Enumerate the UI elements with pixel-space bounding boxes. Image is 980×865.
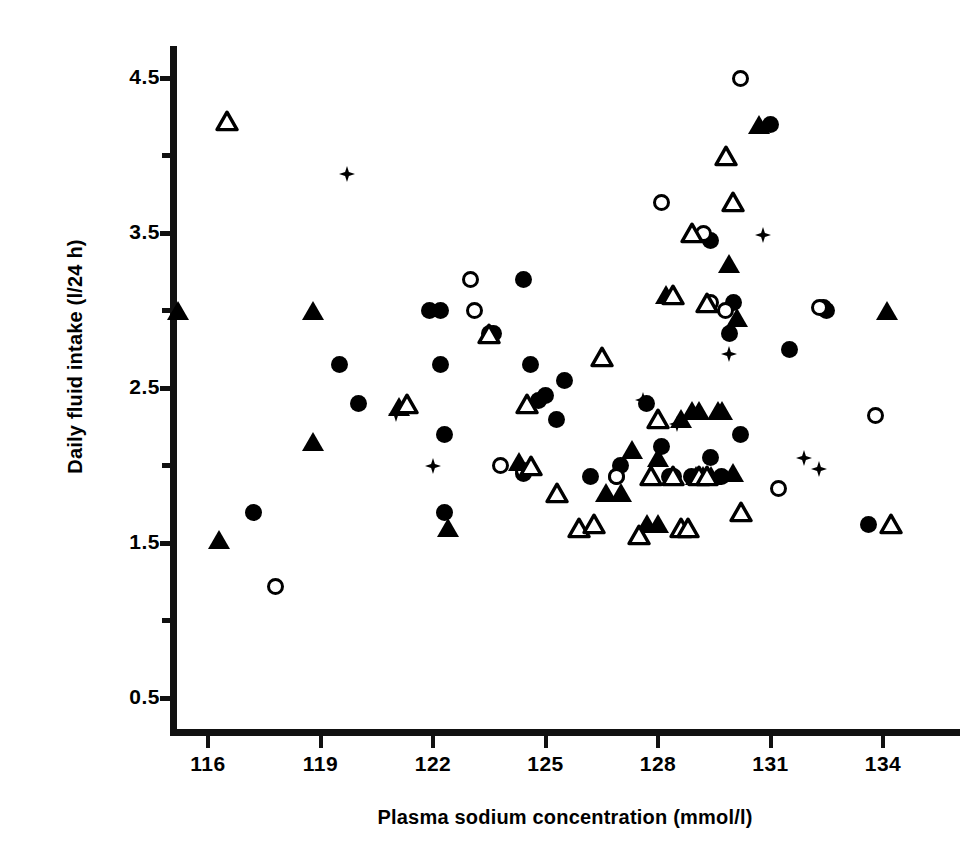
scatter-plot-figure: 4.53.52.51.50.5 116119122125128131134 Pl… <box>0 0 980 865</box>
data-point-filled-circle <box>556 372 573 389</box>
data-point-open-triangle <box>669 517 693 539</box>
data-point-filled-triangle <box>610 483 632 502</box>
data-point-filled-circle <box>436 426 453 443</box>
data-point-filled-circle <box>350 395 367 412</box>
data-point-open-triangle <box>695 465 719 487</box>
data-point-filled-triangle <box>670 409 692 428</box>
data-point-open-triangle <box>721 191 745 213</box>
data-point-filled-circle <box>815 299 832 316</box>
data-point-filled-triangle <box>167 301 189 320</box>
data-point-open-circle <box>867 407 884 424</box>
data-point-open-circle <box>608 468 625 485</box>
data-point-filled-circle <box>661 468 678 485</box>
data-point-filled-circle <box>702 232 719 249</box>
data-point-filled-circle <box>721 325 738 342</box>
data-point-filled-triangle <box>688 401 710 420</box>
data-point-open-triangle <box>879 513 903 535</box>
data-point-filled-triangle <box>636 514 658 533</box>
data-point-filled-circle <box>548 411 565 428</box>
data-point-plus-star <box>388 406 404 422</box>
data-point-filled-circle <box>725 294 742 311</box>
data-point-filled-triangle <box>508 452 530 471</box>
data-point-filled-circle <box>331 356 348 373</box>
data-point-open-triangle <box>395 393 419 415</box>
data-point-filled-circle <box>683 468 700 485</box>
data-point-open-triangle <box>687 465 711 487</box>
data-point-filled-circle <box>537 387 554 404</box>
data-point-filled-triangle <box>655 285 677 304</box>
data-point-open-circle <box>267 578 284 595</box>
data-point-filled-triangle <box>718 254 740 273</box>
data-point-plus-star <box>755 227 771 243</box>
data-point-filled-circle <box>860 516 877 533</box>
data-point-open-circle <box>462 271 479 288</box>
data-point-filled-circle <box>530 392 547 409</box>
data-point-filled-circle <box>432 356 449 373</box>
data-point-filled-triangle <box>647 448 669 467</box>
data-point-filled-circle <box>432 302 449 319</box>
data-point-filled-circle <box>515 465 532 482</box>
data-point-filled-circle <box>713 468 730 485</box>
data-point-plus-star <box>721 346 737 362</box>
data-point-filled-circle <box>653 438 670 455</box>
data-point-filled-circle <box>608 468 625 485</box>
data-point-filled-triangle <box>707 401 729 420</box>
data-point-open-triangle <box>680 222 704 244</box>
data-point-open-circle <box>665 468 682 485</box>
data-point-filled-triangle <box>700 466 722 485</box>
data-point-filled-circle <box>702 449 719 466</box>
data-point-filled-triangle <box>302 432 324 451</box>
data-point-filled-triangle <box>437 518 459 537</box>
data-point-filled-circle <box>818 302 835 319</box>
data-point-open-triangle <box>567 517 591 539</box>
data-point-filled-circle <box>732 426 749 443</box>
data-point-filled-circle <box>515 271 532 288</box>
data-point-open-circle <box>695 225 712 242</box>
data-point-filled-triangle <box>647 514 669 533</box>
data-point-open-circle <box>702 294 719 311</box>
data-point-open-triangle <box>729 501 753 523</box>
data-point-open-circle <box>492 457 509 474</box>
data-point-filled-circle <box>638 395 655 412</box>
data-point-open-triangle <box>519 455 543 477</box>
data-point-filled-triangle <box>692 466 714 485</box>
data-point-filled-triangle <box>726 308 748 327</box>
data-point-filled-circle <box>481 325 498 342</box>
data-point-filled-circle <box>582 468 599 485</box>
data-point-filled-circle <box>485 325 502 342</box>
data-point-open-circle <box>717 302 734 319</box>
data-point-filled-triangle <box>685 466 707 485</box>
data-point-filled-triangle <box>876 301 898 320</box>
data-point-filled-circle <box>762 116 779 133</box>
data-point-open-triangle <box>590 346 614 368</box>
data-point-open-triangle <box>676 517 700 539</box>
data-point-open-triangle <box>477 323 501 345</box>
data-point-filled-circle <box>436 504 453 521</box>
data-point-open-circle <box>653 194 670 211</box>
data-point-filled-circle <box>245 504 262 521</box>
data-point-open-triangle <box>646 408 670 430</box>
data-point-plus-star <box>635 392 651 408</box>
data-point-plus-star <box>425 458 441 474</box>
data-point-open-triangle <box>215 110 239 132</box>
data-point-plus-star <box>811 461 827 477</box>
data-point-filled-triangle <box>621 440 643 459</box>
data-point-open-triangle <box>545 482 569 504</box>
data-point-filled-triangle <box>748 115 770 134</box>
data-point-filled-triangle <box>711 401 733 420</box>
data-point-plus-star <box>339 166 355 182</box>
data-point-filled-circle <box>522 356 539 373</box>
data-point-filled-triangle <box>595 483 617 502</box>
data-point-filled-circle <box>781 341 798 358</box>
data-point-filled-triangle <box>681 401 703 420</box>
plot-area <box>0 0 980 865</box>
data-point-open-circle <box>770 480 787 497</box>
data-point-open-triangle <box>515 393 539 415</box>
data-point-open-circle <box>811 299 828 316</box>
data-point-open-triangle <box>661 465 685 487</box>
data-point-open-triangle <box>695 292 719 314</box>
data-point-filled-triangle <box>722 463 744 482</box>
data-point-filled-triangle <box>208 530 230 549</box>
data-point-open-triangle <box>661 284 685 306</box>
data-point-open-triangle <box>627 524 651 546</box>
